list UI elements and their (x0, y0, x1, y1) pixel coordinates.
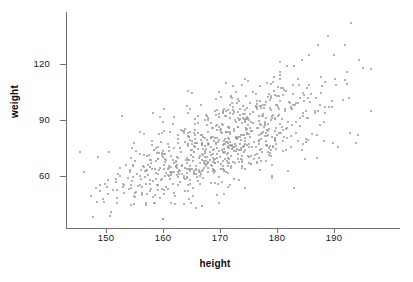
data-point (201, 153, 203, 155)
data-point (207, 131, 209, 133)
data-point (270, 149, 272, 151)
data-point (233, 178, 235, 180)
data-point (240, 149, 242, 151)
data-point (331, 106, 333, 108)
data-point (238, 100, 240, 102)
data-point (267, 96, 269, 98)
data-point (207, 162, 209, 164)
data-point (146, 193, 148, 195)
data-point (327, 35, 329, 37)
data-point (278, 114, 280, 116)
data-point (277, 86, 279, 88)
data-point (174, 195, 176, 197)
data-point (186, 176, 188, 178)
data-point (223, 193, 225, 195)
data-point (232, 85, 234, 87)
data-point (331, 100, 333, 102)
data-point (151, 168, 153, 170)
data-point (116, 189, 118, 191)
data-point (167, 188, 169, 190)
data-point (270, 109, 272, 111)
data-point (260, 107, 262, 109)
data-point (227, 172, 229, 174)
data-point (247, 80, 249, 82)
data-point (216, 153, 218, 155)
data-point (255, 106, 257, 108)
data-point (92, 216, 94, 218)
data-point (194, 129, 196, 131)
data-point (222, 165, 224, 167)
data-point (279, 123, 281, 125)
data-point (137, 185, 139, 187)
data-point (163, 168, 165, 170)
data-point (152, 196, 154, 198)
data-point (213, 140, 215, 142)
data-point (265, 101, 267, 103)
data-point (177, 142, 179, 144)
data-point (177, 138, 179, 140)
data-point (256, 103, 258, 105)
data-point (163, 164, 165, 166)
data-point (206, 156, 208, 158)
data-point (275, 148, 277, 150)
data-point (270, 83, 272, 85)
data-point (350, 22, 352, 24)
data-point (220, 163, 222, 165)
data-point (251, 146, 253, 148)
data-point (154, 194, 156, 196)
data-point (189, 131, 191, 133)
data-point (260, 138, 262, 140)
data-point (286, 137, 288, 139)
data-point (206, 139, 208, 141)
data-point (324, 112, 326, 114)
data-point (244, 78, 246, 80)
data-point (279, 61, 281, 63)
data-point (256, 106, 258, 108)
data-point (276, 134, 278, 136)
data-point (193, 172, 195, 174)
data-point (191, 168, 193, 170)
data-point (99, 184, 101, 186)
data-point (266, 129, 268, 131)
data-point (242, 134, 244, 136)
data-point (358, 59, 360, 61)
data-point (218, 116, 220, 118)
data-point (234, 119, 236, 121)
data-point (284, 110, 286, 112)
data-point (259, 169, 261, 171)
data-point (317, 110, 319, 112)
data-point (229, 104, 231, 106)
data-point (112, 189, 114, 191)
data-point (133, 142, 135, 144)
data-point (286, 65, 288, 67)
data-point (210, 182, 212, 184)
data-point (140, 169, 142, 171)
data-point (264, 124, 266, 126)
data-point (161, 178, 163, 180)
data-point (335, 84, 337, 86)
data-point (232, 161, 234, 163)
data-point (293, 187, 295, 189)
data-point (255, 93, 257, 95)
data-point (266, 82, 268, 84)
data-point (201, 159, 203, 161)
data-point (282, 150, 284, 152)
data-point (196, 176, 198, 178)
data-point (227, 152, 229, 154)
data-point (180, 151, 182, 153)
data-point (90, 195, 92, 197)
data-point (216, 157, 218, 159)
data-point (260, 148, 262, 150)
data-point (194, 146, 196, 148)
data-point (230, 167, 232, 169)
data-point (189, 139, 191, 141)
data-point (141, 186, 143, 188)
data-point (216, 109, 218, 111)
data-point (241, 161, 243, 163)
data-point (203, 162, 205, 164)
data-point (207, 117, 209, 119)
data-point (212, 153, 214, 155)
data-point (110, 211, 112, 213)
data-point (108, 151, 110, 153)
data-point (154, 202, 156, 204)
